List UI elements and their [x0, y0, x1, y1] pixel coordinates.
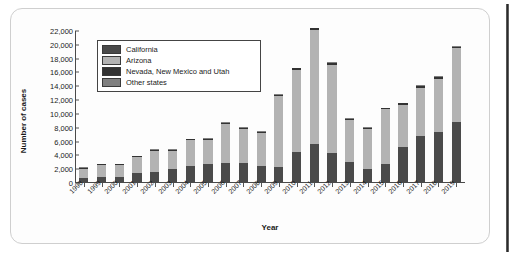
bar-segment: [398, 147, 407, 183]
bar-group[interactable]: [310, 28, 319, 183]
bar-segment: [434, 132, 443, 183]
bar-segment: [203, 140, 212, 165]
bar-segment: [186, 140, 195, 166]
bar-group[interactable]: [150, 149, 159, 183]
bar-group[interactable]: [132, 156, 141, 183]
bar-group[interactable]: [434, 76, 443, 183]
y-axis-tick-label: 18,000: [50, 54, 73, 63]
x-axis-tick-mark: [438, 183, 439, 187]
bar-segment: [398, 105, 407, 147]
y-axis-tick-label: 2,000: [54, 165, 73, 174]
bar-group[interactable]: [363, 127, 372, 183]
bar-group[interactable]: [398, 103, 407, 183]
bar-segment: [239, 129, 248, 163]
bar-group[interactable]: [327, 62, 336, 183]
bar-group[interactable]: [203, 138, 212, 183]
y-axis-tick-label: 16,000: [50, 68, 73, 77]
legend-item[interactable]: Nevada, New Mexico and Utah: [102, 66, 256, 77]
y-axis-line: [75, 31, 76, 183]
legend-color-swatch: [102, 78, 121, 88]
legend-label: Nevada, New Mexico and Utah: [126, 67, 229, 76]
bar-group[interactable]: [239, 127, 248, 183]
y-axis-tick-labels: 02,0004,0006,0008,00010,00012,00014,0001…: [29, 31, 73, 183]
x-axis-tick-mark: [243, 183, 244, 187]
bar-segment: [434, 79, 443, 133]
legend-item[interactable]: California: [102, 44, 256, 55]
y-axis-tick-label: 12,000: [50, 96, 73, 105]
bar-group[interactable]: [168, 149, 177, 183]
bar-segment: [150, 151, 159, 172]
chart-legend: CaliforniaArizonaNevada, New Mexico and …: [97, 40, 261, 92]
legend-color-swatch: [102, 45, 121, 55]
bar-segment: [327, 65, 336, 154]
x-axis-tick-mark: [190, 183, 191, 187]
bar-segment: [381, 109, 390, 163]
y-axis-tick-label: 20,000: [50, 40, 73, 49]
page-edge-decoration: [506, 4, 509, 252]
x-axis-tick-mark: [385, 183, 386, 187]
bar-segment: [310, 144, 319, 183]
bar-segment: [310, 30, 319, 144]
legend-color-swatch: [102, 56, 121, 66]
bar-segment: [416, 88, 425, 136]
bar-segment: [363, 129, 372, 169]
bar-segment: [416, 136, 425, 183]
bar-segment: [221, 124, 230, 163]
bar-group[interactable]: [274, 94, 283, 183]
bar-group[interactable]: [257, 131, 266, 183]
bar-segment: [79, 169, 88, 178]
legend-label: California: [126, 45, 158, 54]
bar-segment: [115, 165, 124, 177]
bar-segment: [97, 165, 106, 177]
bar-segment: [274, 96, 283, 167]
y-axis-tick-label: 4,000: [54, 151, 73, 160]
y-axis-tick-label: 14,000: [50, 82, 73, 91]
legend-item[interactable]: Other states: [102, 77, 256, 88]
bar-segment: [292, 152, 301, 183]
bar-group[interactable]: [381, 108, 390, 183]
bar-segment: [327, 153, 336, 183]
bar-group[interactable]: [292, 68, 301, 183]
bar-segment: [452, 122, 461, 183]
x-axis-tick-mark: [314, 183, 315, 187]
bar-segment: [132, 157, 141, 173]
x-axis-tick-mark: [119, 183, 120, 187]
figure-card: Number of cases 02,0004,0006,0008,00010,…: [10, 8, 490, 244]
bar-group[interactable]: [416, 85, 425, 183]
y-axis-tick-label: 22,000: [50, 27, 73, 36]
bar-segment: [257, 133, 266, 167]
x-axis-title: Year: [262, 223, 279, 232]
bar-group[interactable]: [221, 122, 230, 183]
y-axis-title: Number of cases: [19, 89, 28, 153]
legend-item[interactable]: Arizona: [102, 55, 256, 66]
legend-color-swatch: [102, 67, 121, 77]
bar-segment: [292, 70, 301, 153]
bar-group[interactable]: [186, 139, 195, 183]
legend-label: Arizona: [126, 56, 151, 65]
bar-group[interactable]: [452, 46, 461, 183]
y-axis-tick-label: 8,000: [54, 123, 73, 132]
y-axis-tick-label: 10,000: [50, 109, 73, 118]
legend-label: Other states: [126, 78, 167, 87]
bar-segment: [168, 151, 177, 169]
bar-segment: [452, 48, 461, 122]
bar-group[interactable]: [345, 118, 354, 183]
y-axis-tick-label: 6,000: [54, 137, 73, 146]
stacked-bar-chart: Number of cases 02,0004,0006,0008,00010,…: [11, 9, 491, 245]
bar-segment: [345, 120, 354, 162]
